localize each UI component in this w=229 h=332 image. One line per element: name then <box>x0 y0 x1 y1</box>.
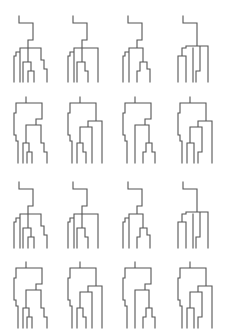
tree-r4-c1 <box>14 262 47 328</box>
dendrogram-grid <box>0 0 229 332</box>
tree-r2-c4 <box>178 97 212 163</box>
tree-r3-c4 <box>178 182 208 248</box>
tree-r1-c2 <box>68 16 98 82</box>
tree-branches <box>14 97 47 163</box>
tree-r3-c2 <box>68 182 98 248</box>
tree-r1-c3 <box>123 16 150 82</box>
tree-branches <box>68 182 98 248</box>
tree-r2-c2 <box>68 97 102 163</box>
tree-branches <box>123 262 155 328</box>
tree-r3-c3 <box>123 182 150 248</box>
tree-r4-c4 <box>178 262 212 328</box>
tree-branches <box>123 16 150 82</box>
tree-branches <box>178 16 208 82</box>
tree-branches <box>68 262 102 328</box>
tree-branches <box>68 97 102 163</box>
tree-branches <box>178 262 212 328</box>
tree-branches <box>14 182 47 248</box>
tree-r3-c1 <box>14 182 47 248</box>
tree-group <box>14 16 212 328</box>
tree-r1-c4 <box>178 16 208 82</box>
tree-branches <box>14 262 47 328</box>
tree-branches <box>14 16 47 82</box>
tree-branches <box>68 16 98 82</box>
tree-r2-c1 <box>14 97 47 163</box>
tree-branches <box>178 182 208 248</box>
tree-branches <box>178 97 212 163</box>
tree-r1-c1 <box>14 16 47 82</box>
tree-r4-c3 <box>123 262 155 328</box>
tree-branches <box>123 182 150 248</box>
tree-branches <box>123 97 155 163</box>
tree-r4-c2 <box>68 262 102 328</box>
tree-r2-c3 <box>123 97 155 163</box>
